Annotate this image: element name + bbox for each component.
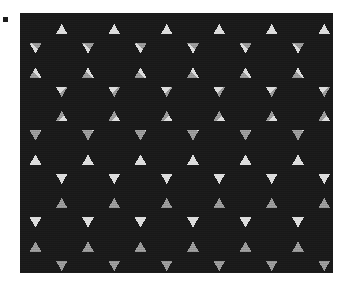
page-root (0, 0, 345, 281)
tessellation-canvas (20, 13, 333, 273)
tessellation-figure (20, 13, 333, 273)
registration-mark-icon (3, 17, 8, 22)
hexagon-layer (20, 13, 333, 273)
